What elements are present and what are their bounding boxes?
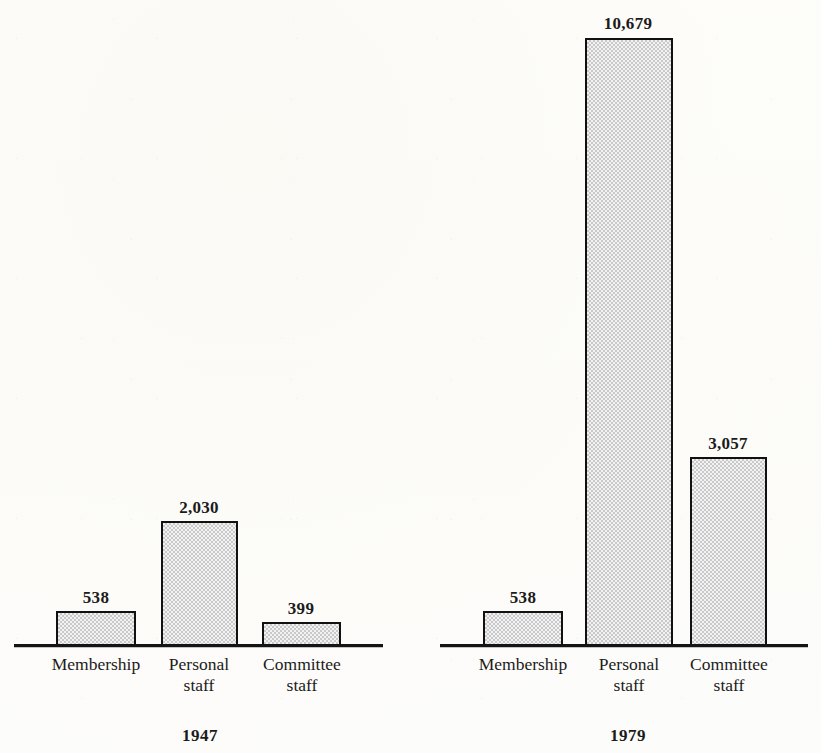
bar-value-membership-1947: 538 bbox=[46, 588, 146, 608]
bar-value-personal-staff-1947: 2,030 bbox=[149, 498, 249, 518]
bar-committee-staff-1947 bbox=[262, 622, 341, 646]
category-label-membership-1979: Membership bbox=[463, 654, 583, 675]
bar-membership-1947 bbox=[56, 611, 136, 646]
bar-personal-staff-1979 bbox=[585, 38, 673, 646]
bar-value-committee-staff-1979: 3,057 bbox=[678, 434, 778, 454]
bar-membership-1979 bbox=[483, 611, 563, 646]
chart-panel-1979: 538 10,679 3,057 Membership Personal sta… bbox=[420, 0, 821, 753]
bar-value-membership-1979: 538 bbox=[473, 588, 573, 608]
bar-personal-staff-1947 bbox=[161, 521, 238, 646]
x-axis-1979 bbox=[440, 644, 808, 647]
category-label-personal-staff-1947: Personal staff bbox=[140, 654, 258, 696]
category-label-membership-1947: Membership bbox=[36, 654, 156, 675]
bar-value-personal-staff-1979: 10,679 bbox=[578, 14, 678, 34]
category-label-committee-staff-1947: Committee staff bbox=[242, 654, 362, 696]
year-label-1947: 1947 bbox=[150, 726, 250, 746]
chart-panel-1947: 538 2,030 399 Membership Personal staff … bbox=[0, 0, 420, 753]
x-axis-1947 bbox=[14, 644, 383, 647]
bar-chart-figure: 538 2,030 399 Membership Personal staff … bbox=[0, 0, 821, 753]
bar-value-committee-staff-1947: 399 bbox=[251, 599, 351, 619]
bar-committee-staff-1979 bbox=[690, 457, 767, 646]
year-label-1979: 1979 bbox=[578, 726, 678, 746]
category-label-committee-staff-1979: Committee staff bbox=[669, 654, 789, 696]
